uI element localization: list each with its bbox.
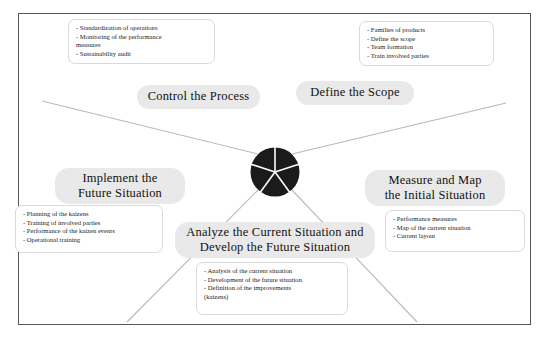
phase-label-analyze-line-1: Analyze the Current Situation and (186, 225, 363, 240)
phase-bullets-measure: - Performance measures - Map of the curr… (385, 210, 525, 252)
phase-label-analyze[interactable]: Analyze the Current Situation and Develo… (175, 222, 375, 258)
bullet-item: - Performance measures (393, 215, 518, 224)
bullet-item: - Current layout (393, 232, 518, 241)
bullet-item: - Train involved parties (367, 52, 487, 61)
bullet-item: - Operational training (23, 236, 156, 245)
phase-bullets-analyze: - Analysis of the current situation - De… (196, 262, 348, 315)
bullet-item: - Planning of the kaizens (23, 210, 156, 219)
bullet-item: - Training of involved parties (23, 219, 156, 228)
phase-bullets-control: - Standardization of operations - Monito… (68, 19, 215, 64)
bullet-item: - Define the scope (367, 35, 487, 44)
bullet-item: - Team formation (367, 43, 487, 52)
bullet-item: - Families of products (367, 26, 487, 35)
bullet-item: - Performance of the kaizen events (23, 227, 156, 236)
phase-label-implement-line-2: Future Situation (78, 186, 162, 201)
phase-label-control[interactable]: Control the Process (137, 85, 260, 109)
bullet-item: - Analysis of the current situation (204, 267, 341, 276)
phase-label-define[interactable]: Define the Scope (296, 81, 414, 105)
bullet-item: - Development of the future situation (204, 276, 341, 285)
phase-bullets-define: - Families of products - Define the scop… (359, 21, 494, 66)
hub-wheel (250, 147, 300, 197)
diagram-canvas: Control the Process Define the Scope Mea… (0, 0, 548, 340)
bullet-item: - Map of the current situation (393, 224, 518, 233)
bullet-item: (kaizens) (204, 293, 341, 302)
phase-label-analyze-line-2: Develop the Future Situation (186, 240, 363, 255)
bullet-item: - Monitoring of the performance (76, 33, 208, 42)
phase-label-measure-line-1: Measure and Map (385, 173, 486, 188)
bullet-item: - Definition of the improvements (204, 284, 341, 293)
bullet-item: - Standardization of operations (76, 24, 208, 33)
phase-label-control-line-1: Control the Process (148, 89, 250, 104)
phase-label-measure-line-2: the Initial Situation (385, 188, 486, 203)
phase-bullets-implement: - Planning of the kaizens - Training of … (15, 205, 163, 253)
bullet-item: - Sustainability audit (76, 50, 208, 59)
phase-label-implement-line-1: Implement the (78, 171, 162, 186)
phase-label-define-line-1: Define the Scope (310, 85, 399, 100)
phase-label-measure[interactable]: Measure and Map the Initial Situation (365, 170, 505, 206)
phase-label-implement[interactable]: Implement the Future Situation (55, 168, 185, 204)
bullet-item: measures (76, 41, 208, 50)
